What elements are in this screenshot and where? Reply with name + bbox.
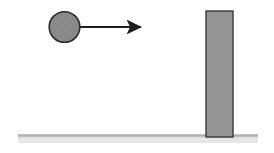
ground-shadow: [18, 138, 258, 143]
diagram-svg: [0, 0, 274, 153]
physics-diagram-canvas: [0, 0, 274, 153]
wall-block: [206, 11, 233, 137]
ball: [49, 12, 80, 43]
